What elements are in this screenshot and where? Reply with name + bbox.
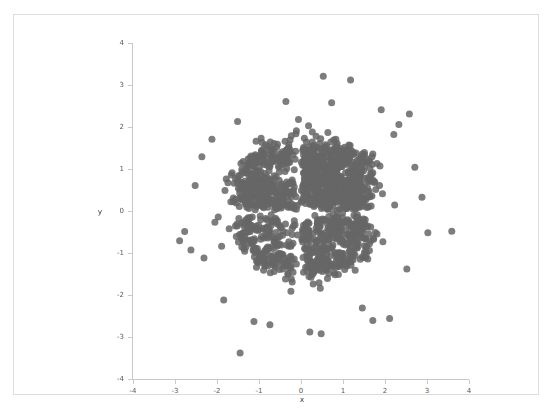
x-tick-label: 4 <box>458 387 480 395</box>
y-tick-mark <box>128 43 132 44</box>
x-tick-label: -4 <box>122 387 144 395</box>
y-tick-label: 2 <box>102 123 124 131</box>
y-tick-label: -1 <box>102 249 124 257</box>
y-tick-label: 4 <box>102 39 124 47</box>
x-tick-mark <box>217 380 218 384</box>
y-axis-label: y <box>94 207 106 216</box>
y-tick-mark <box>128 379 132 380</box>
y-tick-mark <box>128 337 132 338</box>
y-tick-label: -4 <box>102 375 124 383</box>
x-axis-label: x <box>290 395 314 404</box>
x-tick-mark <box>259 380 260 384</box>
y-tick-label: 1 <box>102 165 124 173</box>
x-tick-label: 2 <box>374 387 396 395</box>
x-tick-label: 0 <box>290 387 312 395</box>
x-tick-label: -1 <box>248 387 270 395</box>
x-tick-mark <box>385 380 386 384</box>
x-tick-mark <box>301 380 302 384</box>
y-tick-label: -3 <box>102 333 124 341</box>
y-tick-mark <box>128 85 132 86</box>
x-tick-mark <box>469 380 470 384</box>
y-tick-mark <box>128 295 132 296</box>
figure-frame: -4-3-2-101234 -4-3-2-101234 x y <box>13 14 539 395</box>
y-tick-label: -2 <box>102 291 124 299</box>
x-tick-mark <box>175 380 176 384</box>
x-tick-mark <box>133 380 134 384</box>
x-tick-label: -2 <box>206 387 228 395</box>
y-axis-spine <box>132 43 133 380</box>
plot-area <box>133 43 469 379</box>
figure-container: -4-3-2-101234 -4-3-2-101234 x y <box>0 0 552 410</box>
y-tick-mark <box>128 169 132 170</box>
x-tick-label: 3 <box>416 387 438 395</box>
x-tick-mark <box>343 380 344 384</box>
x-tick-label: -3 <box>164 387 186 395</box>
x-tick-label: 1 <box>332 387 354 395</box>
y-tick-mark <box>128 253 132 254</box>
y-tick-mark <box>128 127 132 128</box>
x-tick-mark <box>427 380 428 384</box>
y-tick-label: 3 <box>102 81 124 89</box>
scatter-plot-canvas <box>133 43 469 379</box>
y-tick-mark <box>128 211 132 212</box>
